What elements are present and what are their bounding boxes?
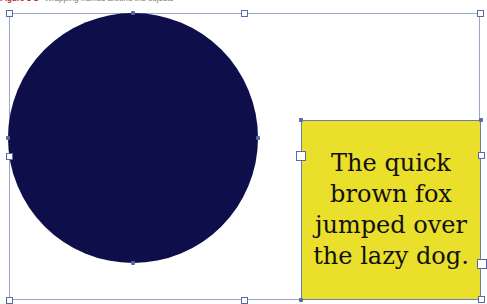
figure-label: Figure 3-1 xyxy=(0,0,38,3)
text-frame-handle-right[interactable] xyxy=(478,152,485,159)
text-frame-handle-bottom-right[interactable] xyxy=(478,296,485,303)
frame-handle-bottom-middle[interactable] xyxy=(241,297,248,304)
figure-caption: Figure 3-1 Wrapping frames around the ob… xyxy=(0,0,173,4)
frame-handle-top-middle[interactable] xyxy=(241,10,248,17)
figure-caption-text: Wrapping frames around the objects xyxy=(44,0,173,3)
text-frame-corner-top-right[interactable] xyxy=(479,118,483,122)
frame-handle-top-left[interactable] xyxy=(6,10,13,17)
frame-handle-top-right[interactable] xyxy=(477,10,484,17)
text-line: the lazy dog. xyxy=(313,241,469,272)
anchor-point-right[interactable] xyxy=(256,136,260,140)
anchor-point-left[interactable] xyxy=(6,136,10,140)
text-frame-content[interactable]: The quick brown fox jumped over the lazy… xyxy=(313,148,469,272)
frame-handle-bottom-left[interactable] xyxy=(6,297,13,304)
text-frame-in-port[interactable] xyxy=(296,151,306,161)
yellow-text-frame[interactable]: The quick brown fox jumped over the lazy… xyxy=(301,120,481,300)
text-frame-corner-top-left[interactable] xyxy=(299,118,303,122)
text-frame-out-port[interactable] xyxy=(477,259,487,269)
text-frame-corner-bottom-left[interactable] xyxy=(299,298,303,302)
text-line: The quick xyxy=(313,148,469,179)
navy-circle-shape[interactable] xyxy=(8,13,258,263)
anchor-point-bottom[interactable] xyxy=(131,261,135,265)
text-line: brown fox xyxy=(313,179,469,210)
anchor-point-top[interactable] xyxy=(131,11,135,15)
frame-handle-middle-left[interactable] xyxy=(6,153,13,160)
text-line: jumped over xyxy=(313,210,469,241)
